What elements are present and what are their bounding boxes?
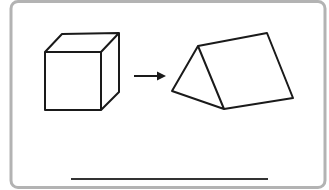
diagram-canvas [0,0,329,190]
diagram-frame: A cube transforms into a triangular pris… [0,0,329,190]
frame-border [11,2,325,188]
